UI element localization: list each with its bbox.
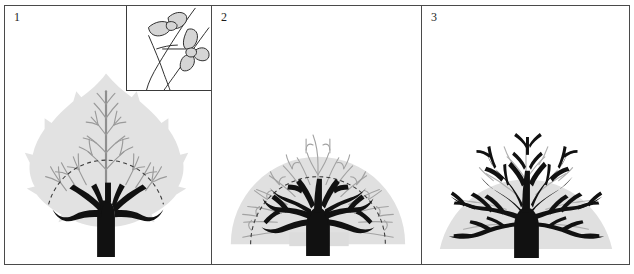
panel-3-artwork [422, 6, 629, 264]
inset-twig-artwork [127, 6, 212, 90]
inset-leaf-lower [180, 29, 209, 71]
panel-2-number: 2 [221, 11, 227, 23]
panel-3-number: 3 [431, 11, 437, 23]
panel-3: 3 [421, 5, 630, 265]
panel-2-artwork [212, 6, 421, 264]
panel-2: 2 [211, 5, 422, 265]
inset-leaf-upper [148, 12, 186, 35]
figure-root: 1 [0, 0, 634, 274]
panel-1-inset-box [126, 5, 212, 91]
panel-1: 1 [4, 5, 212, 265]
panel-1-number: 1 [14, 11, 20, 23]
